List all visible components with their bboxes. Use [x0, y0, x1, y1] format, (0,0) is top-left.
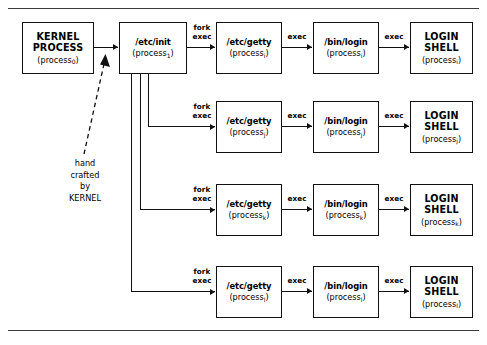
- branch-arrowhead-row2: [210, 124, 215, 130]
- caption-exec-row3: exec: [185, 195, 219, 204]
- getty-name-row2: /etc/getty: [227, 117, 272, 127]
- getty-pid-row2: (processj): [229, 128, 268, 138]
- shell-pid-row3: (processk): [421, 218, 462, 228]
- node-bin-login-row2: /bin/login (processj): [313, 101, 379, 153]
- node-bin-login-row3: /bin/login (processk): [313, 184, 379, 236]
- annotation-line-4: KERNEL: [48, 193, 122, 205]
- caption-fork-exec-row1: fork exec: [185, 24, 219, 42]
- hand-crafted-annotation: hand crafted by KERNEL: [48, 158, 122, 205]
- caption-exec-login-shell-row4: exec: [377, 277, 411, 286]
- caption-exec-getty-login-row2: exec: [280, 112, 314, 121]
- getty-name-row1: /etc/getty: [227, 38, 272, 48]
- init-pid: (process1): [132, 49, 173, 59]
- login-name-row2: /bin/login: [324, 117, 367, 127]
- getty-name-row4: /etc/getty: [227, 282, 272, 292]
- caption-fork-exec-row2: fork exec: [185, 103, 219, 121]
- caption-exec-text-gl-row4: exec: [280, 277, 314, 286]
- shell-name-line1-row4: LOGIN: [424, 275, 458, 286]
- branch-line-row3-vertical: [140, 74, 141, 210]
- node-etc-getty-row2: /etc/getty (processj): [216, 101, 282, 153]
- caption-fork-exec-row4: fork exec: [185, 268, 219, 286]
- caption-exec-getty-login-row3: exec: [280, 195, 314, 204]
- caption-exec-getty-login-row1: exec: [280, 33, 314, 42]
- shell-name-line2-row2: SHELL: [424, 121, 458, 132]
- node-bin-login-row1: /bin/login (processi): [313, 22, 379, 74]
- caption-exec-text-gl-row1: exec: [280, 33, 314, 42]
- arrow-getty-to-login-row2-head: [307, 123, 312, 129]
- node-login-shell-row4: LOGIN SHELL (processl): [410, 266, 473, 318]
- node-etc-getty-row4: /etc/getty (processl): [216, 266, 282, 318]
- login-pid-row1: (processi): [326, 49, 365, 59]
- caption-exec-text-ls-row4: exec: [377, 277, 411, 286]
- arrow-getty-to-login-row1-head: [307, 44, 312, 50]
- branch-arrowhead-row4: [210, 289, 215, 295]
- shell-name-line2-row4: SHELL: [424, 286, 458, 297]
- login-name-row1: /bin/login: [324, 38, 367, 48]
- kernel-name-line1: KERNEL: [37, 31, 80, 42]
- node-etc-getty-row3: /etc/getty (processk): [216, 184, 282, 236]
- caption-exec-getty-login-row4: exec: [280, 277, 314, 286]
- arrow-login-to-shell-row4-head: [404, 288, 409, 294]
- arrow-getty-to-login-row4-head: [307, 288, 312, 294]
- annotation-line-3: by: [48, 181, 122, 193]
- caption-exec-text-gl-row2: exec: [280, 112, 314, 121]
- getty-pid-row3: (processk): [229, 211, 270, 221]
- caption-exec-login-shell-row3: exec: [377, 195, 411, 204]
- branch-line-row2-horizontal: [148, 126, 215, 127]
- branch-line-row2-vertical: [148, 74, 149, 127]
- shell-name-line1-row2: LOGIN: [424, 110, 458, 121]
- branch-line-row3-horizontal: [140, 209, 215, 210]
- caption-exec-row2: exec: [185, 112, 219, 121]
- hand-crafted-dashed-arrow: [62, 50, 132, 160]
- getty-pid-row4: (processl): [229, 293, 268, 303]
- login-name-row4: /bin/login: [324, 282, 367, 292]
- caption-exec-row4: exec: [185, 277, 219, 286]
- caption-exec-row1: exec: [185, 33, 219, 42]
- arrow-login-to-shell-row3-head: [404, 206, 409, 212]
- login-pid-row4: (processl): [326, 293, 365, 303]
- figure-bottom-rule: [8, 330, 479, 331]
- dashed-arrowhead: [100, 54, 110, 67]
- arrow-login-to-shell-row1-head: [404, 44, 409, 50]
- caption-exec-text-ls-row2: exec: [377, 112, 411, 121]
- login-pid-row2: (processj): [326, 128, 365, 138]
- node-etc-getty-row1: /etc/getty (processi): [216, 22, 282, 74]
- dashed-line: [84, 64, 104, 154]
- arrow-login-to-shell-row2-head: [404, 123, 409, 129]
- shell-pid-row4: (processl): [422, 300, 461, 310]
- shell-pid-row2: (processj): [422, 135, 461, 145]
- login-pid-row3: (processk): [326, 211, 367, 221]
- getty-pid-row1: (processi): [229, 49, 268, 59]
- init-name: /etc/init: [135, 38, 171, 48]
- arrow-init-to-getty-row1-head: [210, 44, 215, 50]
- shell-name-line1-row1: LOGIN: [424, 31, 458, 42]
- shell-pid-row1: (processi): [422, 56, 461, 66]
- caption-exec-text-ls-row1: exec: [377, 33, 411, 42]
- process-creation-diagram: KERNEL PROCESS (process0) /etc/init (pro…: [0, 0, 487, 345]
- shell-name-line2-row1: SHELL: [424, 42, 458, 53]
- branch-line-row4-horizontal: [131, 291, 215, 292]
- caption-fork-exec-row3: fork exec: [185, 186, 219, 204]
- getty-name-row3: /etc/getty: [227, 200, 272, 210]
- shell-name-line2-row3: SHELL: [424, 204, 458, 215]
- annotation-line-1: hand: [48, 158, 122, 170]
- login-name-row3: /bin/login: [324, 200, 367, 210]
- caption-exec-login-shell-row1: exec: [377, 33, 411, 42]
- caption-exec-text-gl-row3: exec: [280, 195, 314, 204]
- node-login-shell-row3: LOGIN SHELL (processk): [410, 184, 473, 236]
- caption-exec-login-shell-row2: exec: [377, 112, 411, 121]
- caption-exec-text-ls-row3: exec: [377, 195, 411, 204]
- node-login-shell-row1: LOGIN SHELL (processi): [410, 22, 473, 74]
- shell-name-line1-row3: LOGIN: [424, 193, 458, 204]
- node-bin-login-row4: /bin/login (processl): [313, 266, 379, 318]
- branch-arrowhead-row3: [210, 207, 215, 213]
- arrow-getty-to-login-row3-head: [307, 206, 312, 212]
- annotation-line-2: crafted: [48, 170, 122, 182]
- node-login-shell-row2: LOGIN SHELL (processj): [410, 101, 473, 153]
- figure-top-rule: [8, 8, 479, 9]
